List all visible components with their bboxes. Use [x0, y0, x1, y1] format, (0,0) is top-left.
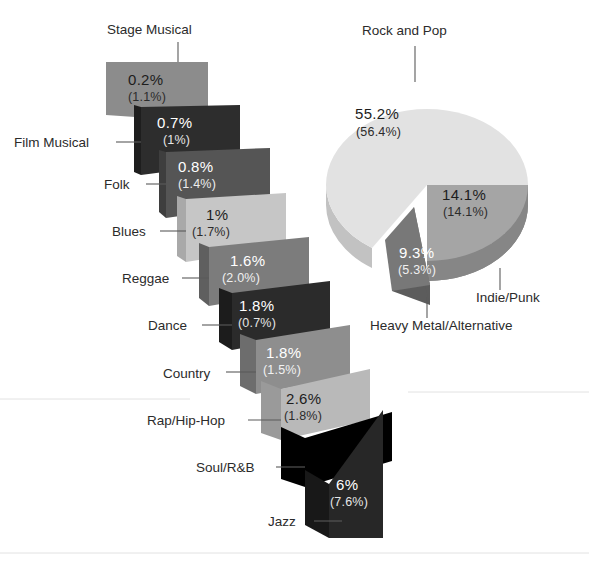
bar-shape-country-side — [240, 334, 256, 394]
bar-subvalue-blues: (1.7%) — [192, 225, 230, 239]
bar-subvalue-stage-musical: (1.1%) — [128, 90, 166, 104]
pie-label-heavy-metal-alternative: Heavy Metal/Alternative — [370, 318, 513, 333]
bar-value-soul-rnb: 4.9% — [313, 438, 348, 455]
bar-shape-reggae-side — [199, 243, 209, 306]
pie-value-indie-punk: 14.1% — [442, 186, 486, 203]
bar-value-blues: 1% — [206, 206, 228, 223]
bar-label-dance: Dance — [148, 318, 187, 333]
bar-label-rap-hip-hop: Rap/Hip-Hop — [147, 413, 225, 428]
bar-label-stage-musical: Stage Musical — [107, 22, 192, 37]
bar-label-blues: Blues — [112, 224, 146, 239]
chart-canvas: 0.2% (1.1%) Stage Musical 0.7% (1%) Film… — [0, 0, 589, 570]
pie-subvalue-indie-punk: (14.1%) — [443, 205, 488, 219]
pie-value-rock-and-pop: 55.2% — [355, 105, 399, 122]
pie-label-indie-punk: Indie/Punk — [476, 290, 540, 305]
combined-music-genre-chart: 0.2% (1.1%) Stage Musical 0.7% (1%) Film… — [0, 0, 589, 570]
bar-value-country: 1.8% — [266, 344, 301, 361]
bar-label-country: Country — [163, 366, 211, 381]
bar-value-dance: 1.8% — [239, 297, 274, 314]
bar-value-folk: 0.8% — [178, 158, 213, 175]
bar-label-film-musical: Film Musical — [14, 135, 89, 150]
bar-value-film-musical: 0.7% — [157, 114, 192, 131]
bar-label-folk: Folk — [104, 177, 130, 192]
bar-label-soul-rnb: Soul/R&B — [196, 460, 255, 475]
bar-value-rap-hip-hop: 2.6% — [286, 390, 321, 407]
bar-shape-dance-side — [219, 288, 232, 350]
bar-shape-film-musical-side — [134, 105, 141, 175]
bar-shape-rap-hip-hop-side — [261, 381, 281, 440]
bar-subvalue-country: (1.5%) — [263, 363, 301, 377]
bar-subvalue-dance: (0.7%) — [238, 316, 276, 330]
pie-subvalue-rock-and-pop: (56.4%) — [356, 125, 401, 139]
bar-subvalue-rap-hip-hop: (1.8%) — [284, 409, 322, 423]
bar-subvalue-jazz: (7.6%) — [330, 495, 368, 509]
bar-subvalue-reggae: (2.0%) — [222, 271, 260, 285]
bar-shape-blues-side — [177, 196, 186, 262]
pie-subvalue-heavy-metal-alternative: (5.3%) — [398, 263, 436, 277]
bar-label-jazz: Jazz — [268, 514, 296, 529]
pie-label-rock-and-pop: Rock and Pop — [362, 23, 447, 38]
pie-value-heavy-metal-alternative: 9.3% — [399, 244, 434, 261]
bar-label-reggae: Reggae — [122, 271, 169, 286]
bar-subvalue-folk: (1.4%) — [178, 177, 216, 191]
bar-value-reggae: 1.6% — [230, 252, 265, 269]
bar-value-stage-musical: 0.2% — [128, 71, 163, 88]
bar-subvalue-film-musical: (1%) — [163, 133, 190, 147]
bar-value-jazz: 6% — [336, 476, 358, 493]
